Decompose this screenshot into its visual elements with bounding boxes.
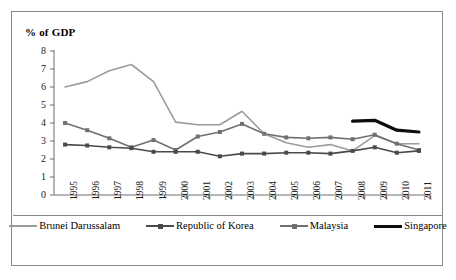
x-axis-tick-1996: 1996 bbox=[91, 181, 101, 200]
x-axis-tick-2005: 2005 bbox=[290, 181, 300, 200]
legend-swatch-icon bbox=[280, 221, 308, 231]
x-axis-tick-2000: 2000 bbox=[180, 181, 190, 200]
y-axis-tick-4: 4 bbox=[30, 118, 46, 128]
legend-swatch-icon bbox=[146, 221, 174, 231]
x-axis-tick-2010: 2010 bbox=[401, 181, 411, 200]
x-axis-tick-2003: 2003 bbox=[246, 181, 256, 200]
y-axis-tick-3: 3 bbox=[30, 136, 46, 146]
x-axis-tick-1998: 1998 bbox=[135, 181, 145, 200]
y-axis-tick-2: 2 bbox=[30, 154, 46, 164]
legend-label: Republic of Korea bbox=[176, 220, 254, 232]
legend-swatch-icon bbox=[9, 221, 37, 231]
line-chart-svg bbox=[42, 49, 434, 201]
series-republic-of-korea bbox=[63, 143, 421, 159]
x-axis-tick-1999: 1999 bbox=[158, 181, 168, 200]
series-singapore bbox=[353, 120, 419, 132]
x-axis-tick-2006: 2006 bbox=[312, 181, 322, 200]
chart-legend: Brunei DarussalamRepublic of KoreaMalays… bbox=[13, 215, 443, 265]
legend-item-singapore[interactable]: Singapore bbox=[374, 220, 447, 232]
x-axis-tick-2001: 2001 bbox=[202, 181, 212, 200]
legend-item-republic-of-korea[interactable]: Republic of Korea bbox=[146, 220, 254, 232]
legend-items: Brunei DarussalamRepublic of KoreaMalays… bbox=[13, 220, 443, 232]
x-axis-tick-2004: 2004 bbox=[268, 181, 278, 200]
series-brunei-darussalam bbox=[65, 65, 419, 151]
x-axis-tick-1995: 1995 bbox=[69, 181, 79, 200]
y-axis-tick-5: 5 bbox=[30, 100, 46, 110]
y-axis-tick-6: 6 bbox=[30, 82, 46, 92]
x-axis-tick-2011: 2011 bbox=[423, 181, 433, 200]
chart-figure: % of GDP 012345678 199519961997199819992… bbox=[11, 11, 443, 266]
plot-area: 012345678 bbox=[42, 49, 434, 201]
legend-label: Brunei Darussalam bbox=[39, 220, 120, 232]
legend-item-malaysia[interactable]: Malaysia bbox=[280, 220, 349, 232]
legend-label: Singapore bbox=[404, 220, 447, 232]
x-axis-tick-1997: 1997 bbox=[113, 181, 123, 200]
chart-title: % of GDP bbox=[25, 26, 75, 38]
x-axis-tick-2008: 2008 bbox=[357, 181, 367, 200]
legend-item-brunei-darussalam[interactable]: Brunei Darussalam bbox=[9, 220, 120, 232]
y-axis-tick-8: 8 bbox=[30, 46, 46, 56]
legend-swatch-icon bbox=[374, 221, 402, 231]
legend-label: Malaysia bbox=[310, 220, 349, 232]
y-axis-tick-7: 7 bbox=[30, 64, 46, 74]
x-axis-tick-2009: 2009 bbox=[379, 181, 389, 200]
y-axis-tick-1: 1 bbox=[30, 172, 46, 182]
x-axis-tick-2007: 2007 bbox=[334, 181, 344, 200]
x-axis-tick-2002: 2002 bbox=[224, 181, 234, 200]
y-axis-tick-0: 0 bbox=[30, 190, 46, 200]
